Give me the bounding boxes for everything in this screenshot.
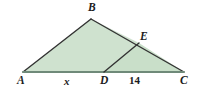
measure-label-ad: x bbox=[64, 76, 70, 87]
vertex-label-e: E bbox=[140, 31, 148, 43]
vertex-label-d: D bbox=[100, 75, 108, 87]
measure-label-dc: 14 bbox=[129, 75, 140, 86]
geometry-figure: A B C D E x 14 bbox=[0, 0, 199, 97]
vertex-label-b: B bbox=[88, 2, 96, 14]
vertex-label-a: A bbox=[17, 75, 25, 87]
vertex-label-c: C bbox=[180, 75, 188, 87]
